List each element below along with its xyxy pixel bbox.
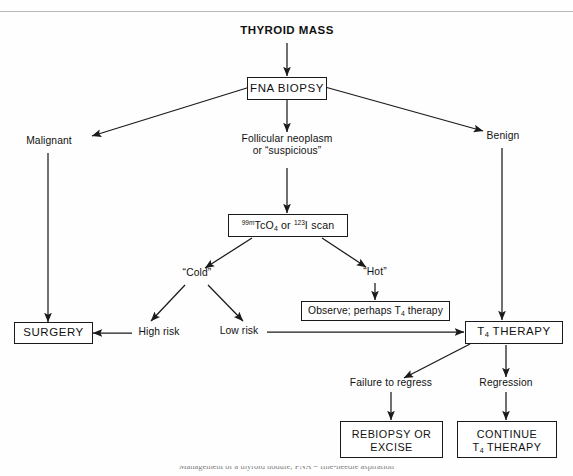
node-regression: Regression bbox=[473, 377, 539, 391]
node-benign-label: Benign bbox=[487, 130, 520, 141]
edge-scan-to-cold bbox=[205, 238, 252, 268]
node-rebiopsy-line2: EXCISE bbox=[347, 441, 436, 454]
node-follicular-neoplasm: Follicular neoplasm or “suspicious” bbox=[222, 133, 352, 165]
node-continue-line1: CONTINUE bbox=[464, 428, 550, 441]
edge-cold-to-low-risk bbox=[208, 285, 243, 321]
scan-elem-iodine: I scan bbox=[305, 219, 334, 231]
node-scan-label: 99mTcO4 or 123I scan bbox=[242, 219, 335, 233]
t4-post: THERAPY bbox=[489, 325, 551, 337]
node-surgery-label: SURGERY bbox=[23, 326, 84, 340]
edge-scan-to-hot bbox=[322, 238, 366, 267]
t4-pre: T bbox=[477, 325, 485, 337]
node-failure-label: Failure to regress bbox=[350, 377, 432, 388]
observe-post: therapy bbox=[405, 305, 443, 316]
node-t4-therapy[interactable]: T4 THERAPY bbox=[465, 321, 563, 344]
scan-sup-123: 123 bbox=[294, 219, 305, 226]
node-continue-line2: T4 THERAPY bbox=[464, 441, 550, 455]
figure-caption-text: Management of a thyroid nodule; FNA = fi… bbox=[0, 466, 573, 471]
page-top-rule bbox=[0, 11, 573, 12]
edge-fna-to-benign bbox=[325, 87, 483, 131]
node-cold: “Cold” bbox=[175, 267, 219, 281]
continue-pre: T bbox=[473, 441, 480, 453]
node-malignant-label: Malignant bbox=[26, 135, 72, 146]
node-failure-to-regress: Failure to regress bbox=[338, 377, 444, 391]
observe-pre: Observe; perhaps T bbox=[308, 305, 401, 316]
scan-elem-tco: TcO bbox=[254, 219, 273, 231]
node-observe-t4[interactable]: Observe; perhaps T4 therapy bbox=[301, 301, 450, 321]
flowchart-page: THYROID MASS FNA BIOPSY Malignant Follic… bbox=[0, 0, 573, 476]
node-follicular-line2: or “suspicious” bbox=[222, 145, 352, 157]
node-continue-t4-therapy[interactable]: CONTINUE T4 THERAPY bbox=[457, 421, 557, 458]
figure-caption: Management of a thyroid nodule; FNA = fi… bbox=[0, 466, 573, 476]
edge-t4-to-failure bbox=[404, 344, 470, 378]
node-low-risk: Low risk bbox=[212, 325, 266, 339]
scan-conjunction: or bbox=[281, 219, 291, 231]
node-thyroid-mass-label: THYROID MASS bbox=[240, 24, 334, 36]
node-regression-label: Regression bbox=[479, 377, 532, 388]
node-hot-label: “Hot” bbox=[363, 266, 386, 277]
node-observe-label: Observe; perhaps T4 therapy bbox=[308, 305, 443, 318]
node-rebiopsy-or-excise[interactable]: REBIOPSY OR EXCISE bbox=[340, 421, 443, 458]
node-fna-biopsy-label: FNA BIOPSY bbox=[250, 82, 324, 96]
scan-sub-4: 4 bbox=[274, 224, 278, 231]
node-high-risk-label: High risk bbox=[138, 326, 179, 337]
flowchart-connectors bbox=[0, 0, 573, 476]
edge-cold-to-high-risk bbox=[151, 285, 185, 321]
node-hot: “Hot” bbox=[353, 266, 397, 280]
node-cold-label: “Cold” bbox=[183, 267, 212, 278]
node-benign: Benign bbox=[479, 130, 527, 144]
node-thyroid-mass: THYROID MASS bbox=[225, 24, 349, 40]
node-malignant: Malignant bbox=[18, 135, 80, 149]
node-rebiopsy-line1: REBIOPSY OR bbox=[347, 428, 436, 441]
node-high-risk: High risk bbox=[131, 326, 187, 340]
node-follicular-line1: Follicular neoplasm bbox=[222, 133, 352, 145]
node-t4-therapy-label: T4 THERAPY bbox=[477, 325, 551, 340]
edge-fna-to-malignant bbox=[92, 87, 250, 136]
continue-post: THERAPY bbox=[484, 441, 542, 453]
node-radionuclide-scan[interactable]: 99mTcO4 or 123I scan bbox=[228, 214, 348, 237]
node-low-risk-label: Low risk bbox=[220, 325, 259, 336]
scan-sup-99m: 99m bbox=[242, 219, 255, 226]
node-surgery[interactable]: SURGERY bbox=[14, 322, 93, 344]
node-fna-biopsy[interactable]: FNA BIOPSY bbox=[247, 77, 327, 100]
